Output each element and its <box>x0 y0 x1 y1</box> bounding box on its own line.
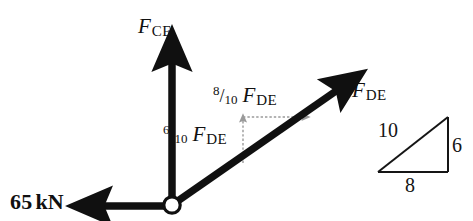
component-x-symbol: F <box>243 83 256 107</box>
label-component-y: 6/10FDE <box>163 123 227 147</box>
component-y-fraction: 6/10 <box>163 129 188 144</box>
label-triangle-vertical: 6 <box>452 135 462 155</box>
label-fce-subscript: CE <box>151 23 172 39</box>
label-fde-symbol: F <box>352 78 365 102</box>
label-fde-subscript: DE <box>365 87 387 103</box>
component-y-symbol: F <box>193 122 206 146</box>
applied-load-value: 65 <box>10 189 32 214</box>
force-vector-fde <box>172 91 336 205</box>
label-component-x: 8/10FDE <box>213 84 277 108</box>
label-triangle-base: 8 <box>405 175 415 195</box>
label-force-fce: FCE <box>138 16 172 39</box>
label-force-fde: FDE <box>352 80 386 103</box>
free-body-diagram: FCE FDE 6/10FDE 8/10FDE 65kN 10 6 8 <box>0 0 473 221</box>
label-applied-load: 65kN <box>10 191 64 213</box>
applied-load-unit: kN <box>32 189 64 214</box>
component-x-subscript: DE <box>255 92 277 108</box>
diagram-canvas <box>0 0 473 221</box>
component-x-fraction: 8/10 <box>213 90 238 105</box>
component-y-subscript: DE <box>205 131 227 147</box>
label-fce-symbol: F <box>138 14 151 38</box>
component-y-denominator: 10 <box>175 130 188 145</box>
component-x-denominator: 10 <box>225 91 238 106</box>
joint-pin-marker <box>164 197 180 213</box>
label-triangle-hypotenuse: 10 <box>378 120 398 140</box>
